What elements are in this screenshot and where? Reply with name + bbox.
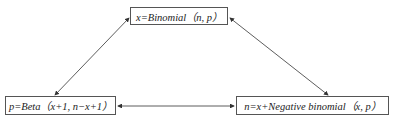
node-beta: p=Beta（x+1, n−x+1） [5,96,116,115]
node-negbinomial: n=x+Negative binomial（x, p） [236,96,389,115]
edge-binomial-beta [55,18,129,95]
node-binomial-label: x=Binomial（n, p） [136,9,222,24]
node-negbinomial-label: n=x+Negative binomial（x, p） [244,98,381,113]
node-binomial: x=Binomial（n, p） [130,7,228,25]
node-beta-label: p=Beta（x+1, n−x+1） [9,98,112,113]
edge-binomial-negbinomial [230,18,328,95]
